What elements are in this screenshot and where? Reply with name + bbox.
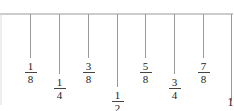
fraction-numerator: 7	[196, 61, 212, 71]
fraction-numerator: 3	[81, 61, 97, 71]
tick-label-fraction: 18	[23, 61, 39, 84]
tick-label-fraction: 12	[110, 90, 126, 111]
fraction-numerator: 1	[52, 77, 68, 87]
tick-label-fraction: 14	[52, 77, 68, 100]
fraction-denominator: 4	[167, 90, 183, 100]
tick-label-fraction: 58	[138, 61, 154, 84]
fraction-denominator: 8	[196, 74, 212, 84]
tick-label-fraction: 34	[167, 77, 183, 100]
fraction-denominator: 2	[110, 103, 126, 111]
tick-label-fraction: 78	[196, 61, 212, 84]
fraction-numerator: 1	[23, 61, 39, 71]
fraction-denominator: 4	[52, 90, 68, 100]
fraction-numerator: 3	[167, 77, 183, 87]
fraction-numerator: 5	[138, 61, 154, 71]
fraction-denominator: 8	[23, 74, 39, 84]
tick-label-whole: 1	[228, 95, 234, 110]
tick-label-fraction: 38	[81, 61, 97, 84]
fraction-denominator: 8	[81, 74, 97, 84]
fraction-denominator: 8	[138, 74, 154, 84]
fraction-numerator: 1	[110, 90, 126, 100]
